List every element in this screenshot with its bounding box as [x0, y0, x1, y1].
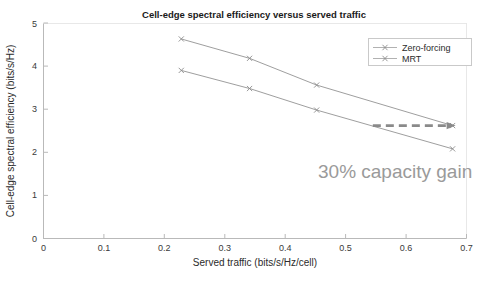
capacity-gain-label: 30% capacity gain: [318, 161, 472, 182]
x-axis-title: Served traffic (bits/s/Hz/cell): [193, 257, 317, 268]
chart-title: Cell-edge spectral efficiency versus ser…: [142, 9, 366, 20]
y-tick-label-0: 0: [32, 234, 37, 244]
x-tick-label-5: 0.5: [339, 243, 352, 253]
legend-label-mrt: MRT: [402, 54, 422, 64]
y-tick-label-4: 4: [32, 61, 37, 71]
spectral-efficiency-line-chart: Cell-edge spectral efficiency versus ser…: [0, 0, 485, 281]
y-tick-label-1: 1: [32, 190, 37, 200]
y-tick-label-3: 3: [32, 104, 37, 114]
x-tick-label-7: 0.7: [460, 243, 473, 253]
x-tick-label-0: 0: [41, 243, 46, 253]
y-tick-label-2: 2: [32, 147, 37, 157]
x-tick-label-3: 0.3: [219, 243, 232, 253]
legend-label-zero-forcing: Zero-forcing: [402, 43, 451, 53]
chart-legend[interactable]: Zero-forcing MRT: [369, 39, 472, 66]
x-tick-label-6: 0.6: [400, 243, 413, 253]
y-axis-title: Cell-edge spectral efficiency (bits/s/Hz…: [5, 45, 16, 218]
chart-figure: Cell-edge spectral efficiency versus ser…: [0, 0, 485, 281]
x-tick-label-1: 0.1: [98, 243, 111, 253]
x-tick-label-4: 0.4: [279, 243, 292, 253]
x-tick-label-2: 0.2: [158, 243, 171, 253]
y-tick-label-5: 5: [32, 19, 37, 29]
